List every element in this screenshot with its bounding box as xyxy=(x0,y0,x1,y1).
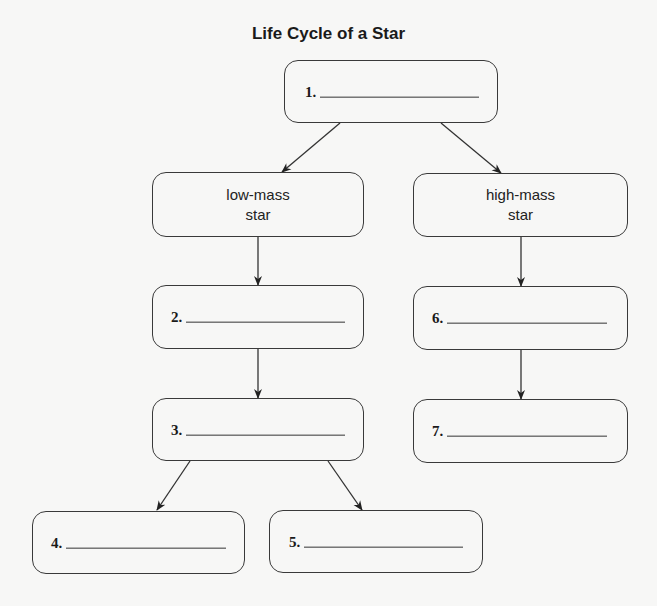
stage-box-1: 1. xyxy=(284,60,498,123)
low-mass-label-line2: star xyxy=(153,205,363,225)
stage-box-3: 3. xyxy=(152,398,364,461)
low-mass-label-line1: low-mass xyxy=(153,185,363,205)
stage-box-2: 2. xyxy=(152,285,364,349)
stage-box-4: 4. xyxy=(32,511,245,574)
stage-number-1: 1. xyxy=(305,83,316,99)
arrow-1-to-high-mass xyxy=(441,123,501,173)
stage-number-3: 3. xyxy=(171,421,182,437)
low-mass-star-box: low-mass star xyxy=(152,172,364,237)
stage-number-6: 6. xyxy=(432,310,443,326)
arrow-3-to-5 xyxy=(328,461,362,510)
arrow-3-to-4 xyxy=(157,461,190,510)
answer-blank-5[interactable] xyxy=(304,532,463,547)
stage-number-5: 5. xyxy=(289,533,300,549)
high-mass-star-label: high-mass star xyxy=(414,185,627,225)
stage-box-6: 6. xyxy=(413,286,628,350)
answer-blank-6[interactable] xyxy=(447,309,607,324)
answer-blank-4[interactable] xyxy=(66,533,226,548)
high-mass-label-line1: high-mass xyxy=(414,185,627,205)
stage-box-5: 5. xyxy=(269,510,483,573)
high-mass-star-box: high-mass star xyxy=(413,173,628,237)
stage-box-7: 7. xyxy=(413,399,628,463)
stage-number-7: 7. xyxy=(432,423,443,439)
answer-blank-1[interactable] xyxy=(320,82,479,97)
stage-number-2: 2. xyxy=(171,309,182,325)
answer-blank-3[interactable] xyxy=(186,420,345,435)
answer-blank-2[interactable] xyxy=(186,308,345,323)
low-mass-star-label: low-mass star xyxy=(153,185,363,225)
answer-blank-7[interactable] xyxy=(447,422,607,437)
high-mass-label-line2: star xyxy=(414,205,627,225)
arrow-1-to-low-mass xyxy=(282,123,340,172)
stage-number-4: 4. xyxy=(51,534,62,550)
